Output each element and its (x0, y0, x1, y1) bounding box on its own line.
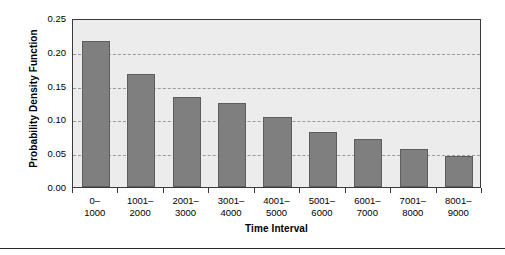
x-tick-label-line: 5000 (254, 207, 299, 219)
x-tick-mark (299, 188, 300, 193)
x-tick-label-line: 3000 (163, 207, 208, 219)
x-tick-mark (481, 188, 482, 193)
bottom-divider (0, 248, 505, 249)
x-tick-label: 3001–4000 (208, 195, 253, 218)
x-tick-label-line: 0– (72, 195, 117, 207)
y-tick-label: 0.00 (36, 183, 66, 193)
x-tick-label-line: 7001– (390, 195, 435, 207)
x-tick-label-line: 8000 (390, 207, 435, 219)
x-tick-label-line: 1001– (117, 195, 162, 207)
x-tick-label-line: 5001– (299, 195, 344, 207)
y-tick-label: 0.20 (36, 48, 66, 58)
x-tick-mark (254, 188, 255, 193)
x-tick-label: 2001–3000 (163, 195, 208, 218)
bar (173, 97, 201, 187)
x-tick-label-line: 4001– (254, 195, 299, 207)
x-tick-label: 5001–6000 (299, 195, 344, 218)
x-tick-label: 4001–5000 (254, 195, 299, 218)
y-tick-label: 0.25 (36, 14, 66, 24)
bar (354, 139, 382, 187)
x-tick-mark (436, 188, 437, 193)
bar (82, 41, 110, 187)
bar (263, 117, 291, 187)
x-axis-tick-marks (72, 188, 481, 193)
x-tick-mark (72, 188, 73, 193)
x-tick-label-line: 7000 (345, 207, 390, 219)
x-tick-label: 6001–7000 (345, 195, 390, 218)
x-tick-mark (208, 188, 209, 193)
x-tick-mark (390, 188, 391, 193)
x-axis-title: Time Interval (72, 223, 481, 234)
x-tick-label-line: 4000 (208, 207, 253, 219)
y-tick-label: 0.15 (36, 82, 66, 92)
bar (400, 149, 428, 187)
x-tick-label: 1001–2000 (117, 195, 162, 218)
bar (309, 132, 337, 187)
bar (127, 74, 155, 187)
x-tick-label-line: 1000 (72, 207, 117, 219)
x-tick-label: 7001–8000 (390, 195, 435, 218)
bar (218, 103, 246, 187)
chart-figure: Probability Density Function 0.000.050.1… (0, 0, 505, 255)
y-axis-tick-labels: 0.000.050.100.150.200.25 (36, 0, 66, 255)
x-tick-label-line: 8001– (436, 195, 481, 207)
y-tick-label: 0.05 (36, 149, 66, 159)
y-tick-label: 0.10 (36, 115, 66, 125)
x-tick-mark (345, 188, 346, 193)
x-tick-label-line: 6000 (299, 207, 344, 219)
x-axis-tick-labels: 0–10001001–20002001–30003001–40004001–50… (72, 195, 481, 225)
x-tick-label-line: 9000 (436, 207, 481, 219)
plot-area (72, 19, 481, 188)
x-tick-mark (117, 188, 118, 193)
x-tick-label: 0–1000 (72, 195, 117, 218)
x-tick-label-line: 6001– (345, 195, 390, 207)
x-tick-mark (163, 188, 164, 193)
x-tick-label: 8001–9000 (436, 195, 481, 218)
bar-series (73, 20, 480, 187)
bar (445, 156, 473, 187)
x-tick-label-line: 2001– (163, 195, 208, 207)
x-tick-label-line: 3001– (208, 195, 253, 207)
x-tick-label-line: 2000 (117, 207, 162, 219)
